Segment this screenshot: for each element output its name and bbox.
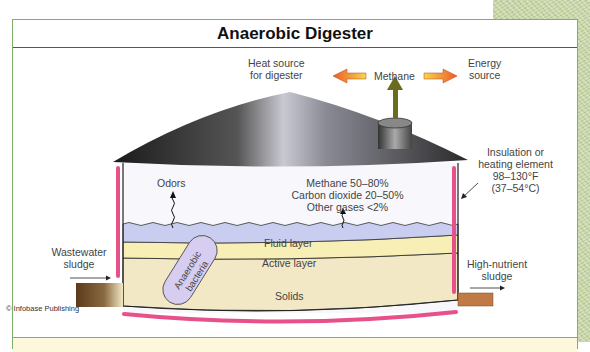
energy-source-label: Energy source <box>468 57 501 81</box>
inlet-pipe <box>76 283 123 307</box>
methane-up-arrow <box>393 88 398 118</box>
heating-element-right <box>452 166 456 294</box>
outlet-pipe <box>458 293 493 306</box>
fluid-layer-label: Fluid layer <box>264 237 312 249</box>
heating-element-bottom <box>124 312 456 322</box>
insulation-label: Insulation or heating element 98–130°F (… <box>458 146 573 194</box>
heat-source-label: Heat source for digester <box>248 57 305 81</box>
active-layer-label: Active layer <box>262 257 316 269</box>
wastewater-sludge-label: Wastewater sludge <box>44 246 114 270</box>
odors-label: Odors <box>157 177 186 189</box>
solids-label: Solids <box>275 290 304 302</box>
high-nutrient-sludge-label: High-nutrient sludge <box>462 258 532 282</box>
copyright-credit: © Infobase Publishing <box>6 304 79 313</box>
heating-element-left <box>116 166 120 278</box>
arrow-to-energy-source <box>424 69 457 83</box>
methane-label: Methane <box>374 70 415 82</box>
gas-composition-label: Methane 50–80% Carbon dioxide 20–50% Oth… <box>280 177 415 213</box>
arrow-to-heat-source <box>333 69 366 83</box>
roof <box>113 92 468 167</box>
